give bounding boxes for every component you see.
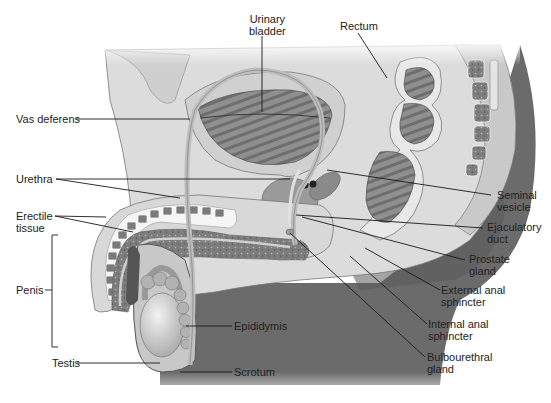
- label-line: Scrotum: [234, 366, 275, 378]
- label-epididymis: Epididymis: [234, 320, 287, 332]
- label-line: Urethra: [16, 173, 53, 185]
- label-line: Vas deferens: [16, 113, 80, 125]
- label-testis: Testis: [52, 357, 80, 369]
- anatomy-illustration: [0, 0, 551, 403]
- label-urinary-bladder: Urinary bladder: [249, 13, 286, 37]
- erectile-tissue-segment: [108, 252, 117, 260]
- label-line: Testis: [52, 357, 80, 369]
- label-bulbourethral-gland: Bulbourethral gland: [427, 351, 492, 375]
- erectile-tissue-segment: [127, 222, 136, 230]
- anatomy-diagram: Urinary bladder Rectum Vas deferens Uret…: [0, 0, 551, 403]
- label-line: Urinary: [249, 13, 286, 25]
- label-urethra: Urethra: [16, 173, 53, 185]
- label-penis: Penis: [16, 284, 44, 296]
- erectile-tissue-segment: [150, 210, 159, 218]
- label-line: gland: [469, 265, 510, 277]
- label-scrotum: Scrotum: [234, 366, 275, 378]
- erectile-tissue-segment: [112, 241, 121, 249]
- label-seminal-vesicle: Seminal vesicle: [497, 189, 537, 213]
- label-line: duct: [487, 233, 541, 245]
- label-line: Bulbourethral: [427, 351, 492, 363]
- label-line: Prostate: [469, 253, 510, 265]
- penis-bracket: [52, 235, 58, 347]
- label-line: Epididymis: [234, 320, 287, 332]
- label-vas-deferens: Vas deferens: [16, 113, 80, 125]
- erectile-tissue-segment: [106, 264, 115, 272]
- label-internal-anal-sphincter: Internal anal sphincter: [428, 318, 489, 342]
- label-line: Internal anal: [428, 318, 489, 330]
- label-line: Ejaculatory: [487, 221, 541, 233]
- label-ejaculatory-duct: Ejaculatory duct: [487, 221, 541, 245]
- label-line: Erectile: [16, 210, 53, 222]
- label-prostate-gland: Prostate gland: [469, 253, 510, 277]
- label-line: External anal: [441, 284, 505, 296]
- label-erectile-tissue: Erectile tissue: [16, 210, 53, 234]
- erectile-tissue-segment: [138, 215, 147, 223]
- label-line: sphincter: [428, 330, 489, 342]
- label-line: gland: [427, 363, 492, 375]
- leader-erectile-tissue-1: [55, 216, 106, 217]
- erectile-tissue-segment: [202, 207, 211, 215]
- erectile-tissue-segment: [176, 206, 185, 214]
- testis: [140, 293, 184, 357]
- label-line: vesicle: [497, 201, 537, 213]
- label-line: bladder: [249, 25, 286, 37]
- label-line: Penis: [16, 284, 44, 296]
- erectile-tissue-segment: [163, 207, 172, 215]
- label-line: Seminal: [497, 189, 537, 201]
- label-line: sphincter: [441, 296, 505, 308]
- label-line: Rectum: [340, 20, 378, 32]
- label-rectum: Rectum: [340, 20, 378, 32]
- erectile-tissue-segment: [215, 209, 224, 217]
- erectile-tissue-segment: [118, 231, 127, 239]
- label-line: tissue: [16, 222, 53, 234]
- label-external-anal-sphincter: External anal sphincter: [441, 284, 505, 308]
